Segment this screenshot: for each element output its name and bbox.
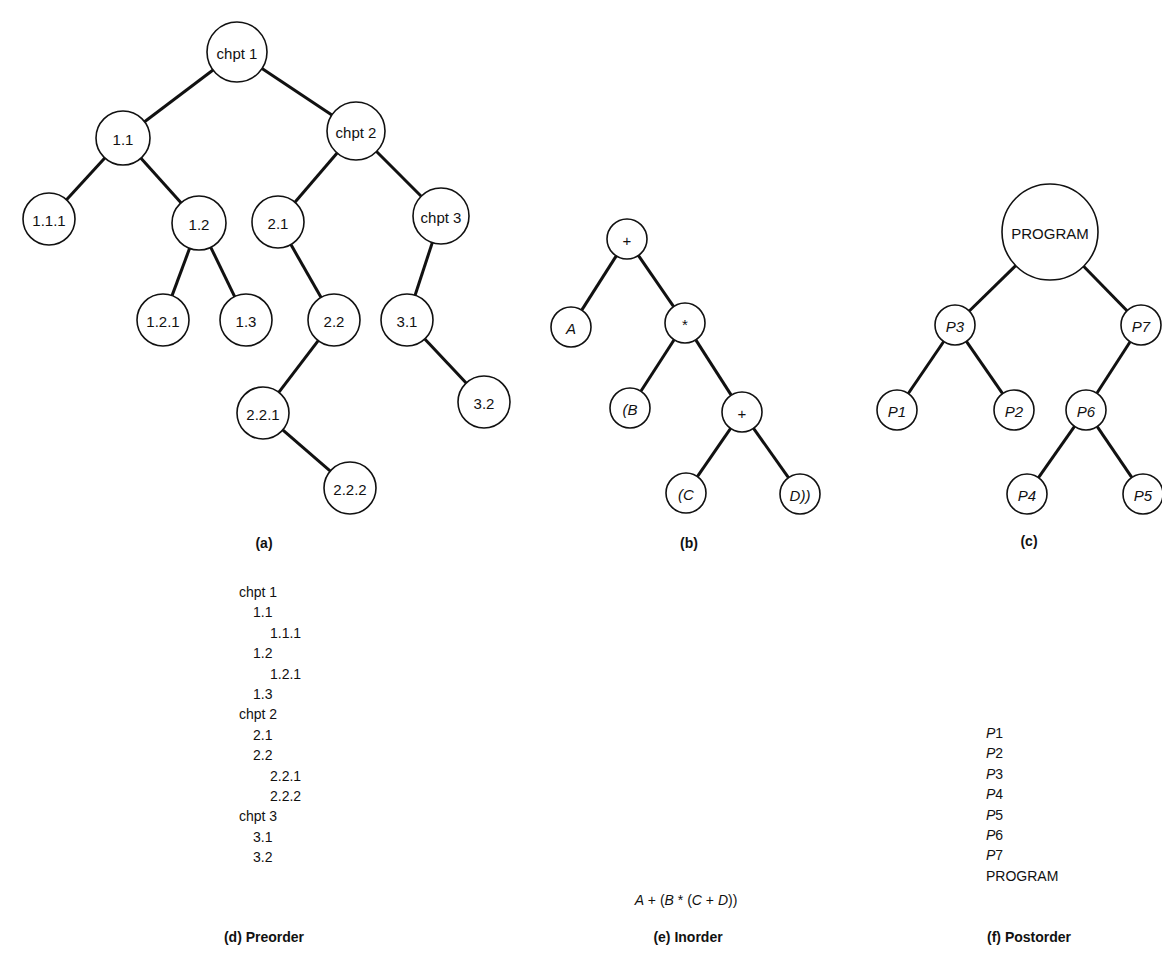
tree-edge xyxy=(211,247,235,296)
tree-node-a: A xyxy=(551,307,591,347)
tree-node-star: * xyxy=(665,303,705,343)
postorder-item-prefix: P xyxy=(986,766,995,782)
tree-edge xyxy=(641,340,674,391)
tree-edge xyxy=(908,342,943,394)
node-label: 2.1 xyxy=(268,215,289,232)
tree-b-expression-tree: +A*(B+(CD)) xyxy=(551,219,820,514)
preorder-item: 2.2.2 xyxy=(239,786,301,806)
caption-a: (a) xyxy=(255,535,272,551)
caption-b: (b) xyxy=(680,535,698,551)
tree-edge xyxy=(754,428,789,477)
tree-node-p5: P5 xyxy=(1123,474,1162,514)
tree-node-p6: P6 xyxy=(1066,390,1106,430)
caption-inorder: (e) Inorder xyxy=(653,929,722,945)
tree-node-n2-2: 2.2 xyxy=(308,294,360,346)
operator: + ( xyxy=(644,892,665,908)
preorder-item: 3.2 xyxy=(239,847,301,867)
tree-edge xyxy=(1084,266,1127,310)
tree-edge xyxy=(279,341,318,393)
tree-node-n2-1: 2.1 xyxy=(252,196,304,248)
postorder-item: P1 xyxy=(986,723,1058,743)
preorder-item: 2.2.1 xyxy=(239,766,301,786)
node-label: P1 xyxy=(888,403,906,420)
node-label: 1.3 xyxy=(236,313,257,330)
postorder-item: PROGRAM xyxy=(986,866,1058,886)
node-label: PROGRAM xyxy=(1011,225,1089,242)
node-label: chpt 3 xyxy=(421,209,462,226)
operand: C xyxy=(692,892,702,908)
tree-node-chpt2: chpt 2 xyxy=(327,102,385,160)
tree-node-plus1: + xyxy=(607,219,647,259)
preorder-item: chpt 3 xyxy=(239,806,301,826)
tree-node-b: (B xyxy=(610,388,650,428)
tree-node-p4: P4 xyxy=(1007,474,1047,514)
tree-node-n1-1: 1.1 xyxy=(96,111,150,165)
tree-edge xyxy=(415,243,432,296)
preorder-item: 3.1 xyxy=(239,827,301,847)
operator: )) xyxy=(728,892,737,908)
tree-edge xyxy=(145,70,213,122)
postorder-item-suffix: 7 xyxy=(995,847,1003,863)
preorder-item: 2.2 xyxy=(239,745,301,765)
postorder-item-suffix: 3 xyxy=(995,766,1003,782)
node-label: chpt 2 xyxy=(336,124,377,141)
postorder-list: P1P2P3P4P5P6P7PROGRAM xyxy=(986,723,1058,886)
tree-edge xyxy=(295,153,337,202)
tree-edge xyxy=(582,256,617,310)
node-label: (B xyxy=(623,401,638,418)
postorder-item-suffix: PROGRAM xyxy=(986,868,1058,884)
tree-node-p7: P7 xyxy=(1121,305,1161,345)
node-label: D)) xyxy=(790,487,811,504)
tree-node-n1-2: 1.2 xyxy=(172,196,226,250)
preorder-item: 1.2.1 xyxy=(239,664,301,684)
postorder-item-suffix: 1 xyxy=(995,725,1003,741)
tree-node-c: (C xyxy=(666,473,706,513)
node-label: 2.2 xyxy=(324,313,345,330)
node-label: 1.1.1 xyxy=(32,212,65,229)
node-label: P2 xyxy=(1005,403,1024,420)
node-label: 3.2 xyxy=(474,395,495,412)
node-label: + xyxy=(623,232,632,249)
postorder-item: P4 xyxy=(986,784,1058,804)
postorder-item-suffix: 2 xyxy=(995,745,1003,761)
operand: D xyxy=(718,892,728,908)
tree-edge xyxy=(638,255,673,306)
node-label: chpt 1 xyxy=(217,45,258,62)
tree-node-p2: P2 xyxy=(994,390,1034,430)
operand: A xyxy=(635,892,644,908)
caption-postorder: (f) Postorder xyxy=(987,929,1071,945)
tree-edge xyxy=(969,266,1015,311)
tree-node-n3-1: 3.1 xyxy=(381,294,433,346)
tree-a-chapter-outline: chpt 11.1chpt 21.1.11.22.1chpt 31.2.11.3… xyxy=(23,22,510,514)
postorder-item-prefix: P xyxy=(986,725,995,741)
tree-node-p1: P1 xyxy=(877,390,917,430)
tree-node-n1-3: 1.3 xyxy=(220,294,272,346)
preorder-item: 1.3 xyxy=(239,684,301,704)
preorder-item: 1.1 xyxy=(239,602,301,622)
caption-c: (c) xyxy=(1020,533,1037,549)
tree-edge xyxy=(141,158,181,203)
tree-edge xyxy=(696,340,731,395)
tree-edge xyxy=(1097,342,1130,393)
preorder-item: chpt 2 xyxy=(239,704,301,724)
preorder-item: 1.1.1 xyxy=(239,623,301,643)
postorder-item: P2 xyxy=(986,743,1058,763)
node-label: 3.1 xyxy=(397,313,418,330)
preorder-item: 2.1 xyxy=(239,725,301,745)
node-label: P4 xyxy=(1018,487,1036,504)
node-label: 2.2.2 xyxy=(333,481,366,498)
tree-edge xyxy=(377,152,422,197)
preorder-item: chpt 1 xyxy=(239,582,301,602)
tree-node-plus2: + xyxy=(722,392,762,432)
postorder-item: P7 xyxy=(986,845,1058,865)
tree-edge xyxy=(172,248,190,295)
postorder-item-prefix: P xyxy=(986,827,995,843)
tree-edge xyxy=(1038,426,1074,477)
tree-node-n3-2: 3.2 xyxy=(458,376,510,428)
node-label: P6 xyxy=(1077,403,1096,420)
postorder-item-suffix: 6 xyxy=(995,827,1003,843)
postorder-item-prefix: P xyxy=(986,847,995,863)
tree-edge xyxy=(291,245,321,298)
node-label: P3 xyxy=(946,318,965,335)
tree-node-program: PROGRAM xyxy=(1002,184,1098,280)
